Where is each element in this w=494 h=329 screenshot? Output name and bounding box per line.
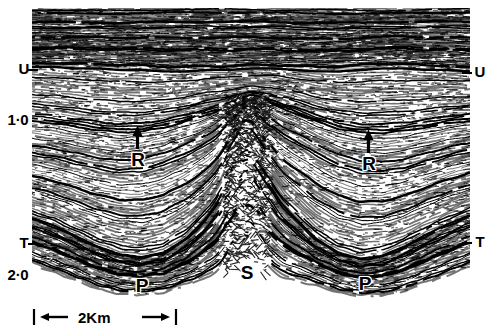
- marker-label-R-left: R: [128, 150, 148, 169]
- seismic-section-figure: U 1·0 T 2·0 U T R R P S P: [0, 0, 494, 329]
- marker-label-P-left: P: [132, 276, 152, 295]
- marker-label-S-centre: S: [237, 263, 257, 282]
- marker-label-R-right: R: [359, 154, 379, 173]
- marker-label-P-right: P: [355, 274, 375, 293]
- horizon-tick-U-left: [28, 69, 38, 71]
- horizon-tick-T-right: [462, 242, 472, 244]
- time-label-1-0: 1·0: [4, 112, 32, 127]
- horizon-label-T-right: T: [472, 234, 488, 249]
- scale-bar-label: 2Km: [78, 309, 111, 326]
- horizon-tick-U-right: [462, 72, 472, 74]
- horizon-label-U-right: U: [472, 64, 488, 79]
- horizon-tick-T-left: [28, 243, 38, 245]
- time-label-2-0: 2·0: [4, 267, 32, 282]
